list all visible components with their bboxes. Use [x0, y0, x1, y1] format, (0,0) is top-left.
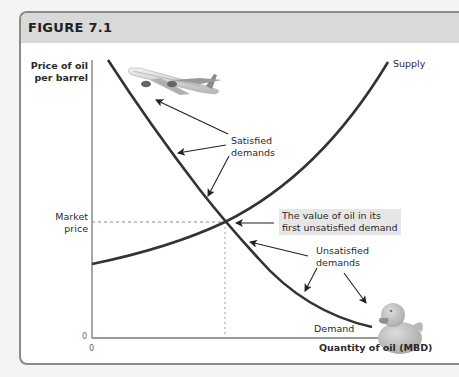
- unsatisfied-demands-label: Unsatisfied demands: [316, 245, 369, 269]
- y-origin-label: 0: [82, 331, 87, 343]
- y-axis-label-line2: per barrel: [28, 72, 88, 84]
- x-axis-label: Quantity of oil (MBD): [319, 342, 432, 354]
- unsatisfied-line1: Unsatisfied: [316, 245, 369, 257]
- market-price-label: Market price: [28, 211, 88, 235]
- y-axis-label: Price of oil per barrel: [28, 60, 88, 84]
- unsatisfied-line2: demands: [316, 257, 369, 269]
- market-price-line2: price: [28, 223, 88, 235]
- demand-curve: [108, 60, 372, 327]
- x-origin-label: 0: [89, 343, 94, 355]
- satisfied-demands-label: Satisfied demands: [231, 135, 275, 159]
- value-callout: The value of oil in its first unsatisfie…: [279, 209, 401, 235]
- value-line1: The value of oil in its: [282, 210, 398, 222]
- airplane-image: [128, 68, 222, 95]
- y-axis-label-line1: Price of oil: [28, 60, 88, 72]
- satisfied-line1: Satisfied: [231, 135, 275, 147]
- value-line2: first unsatisfied demand: [282, 222, 398, 234]
- supply-label: Supply: [393, 58, 425, 70]
- market-price-line1: Market: [28, 211, 88, 223]
- satisfied-line2: demands: [231, 147, 275, 159]
- demand-label: Demand: [314, 323, 354, 335]
